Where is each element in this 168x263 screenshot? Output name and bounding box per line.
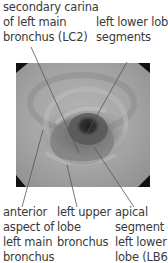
label-secondary-carina: secondary carina of left main bronchus (… [3, 0, 99, 45]
bronchoscopy-image [16, 63, 150, 187]
label-apical-segment-lb6: apical segment of left lower lobe (LB6) [115, 205, 168, 263]
label-anterior-aspect: anterior aspect of left main bronchus [3, 205, 54, 263]
label-left-lower-lobe-segments: left lower lobe segments [96, 15, 168, 45]
label-left-upper-lobe-bronchus: left upper lobe bronchus [57, 205, 111, 250]
